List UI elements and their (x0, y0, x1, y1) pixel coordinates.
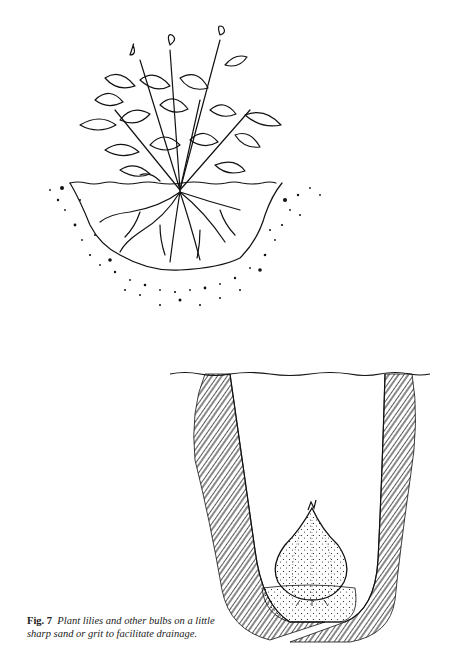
caption-text: Plant lilies and other bulbs on a little… (27, 615, 215, 639)
plant-in-hole-illustration (20, 0, 340, 340)
figure-label: Fig. 7 (27, 615, 52, 626)
figure-caption: Fig. 7 Plant lilies and other bulbs on a… (27, 614, 217, 640)
